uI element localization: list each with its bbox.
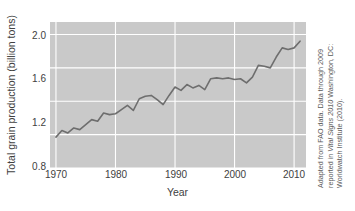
x-tick-label: 1970	[36, 170, 76, 180]
chart-svg	[50, 22, 306, 168]
caption-line-2-prefix: reported in	[325, 152, 334, 188]
gridlines	[50, 22, 306, 168]
x-tick-label: 2000	[215, 170, 255, 180]
caption-line-2-suffix: Washington, DC:	[325, 44, 334, 100]
x-tick-label: 2010	[274, 170, 314, 180]
y-tick-label: 1.6	[20, 74, 46, 84]
data-line-total-grain-production	[56, 41, 300, 137]
plot-area	[50, 22, 306, 168]
x-tick-label: 1980	[96, 170, 136, 180]
x-axis-title: Year	[50, 186, 305, 198]
y-tick-label: 1.2	[20, 118, 46, 128]
caption-line-3: Worldwatch Institute (2010).	[335, 99, 344, 188]
caption-line-1: Adapted from FAO data. Data through 2009	[316, 49, 325, 188]
x-tick-label: 1990	[156, 170, 196, 180]
y-tick-label: 2.0	[20, 31, 46, 41]
chart-figure: Total grain production (billion tons) 0.…	[0, 0, 355, 211]
caption-italic-title: Vital Signs 2010	[325, 100, 334, 152]
